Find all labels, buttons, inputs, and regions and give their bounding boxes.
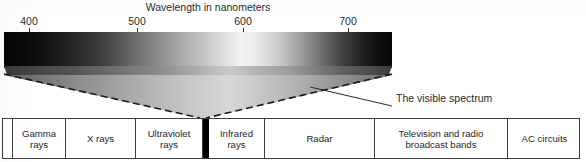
em-band-label: AC circuits — [522, 133, 568, 144]
em-band-label: Infraredrays — [220, 128, 253, 150]
em-band-label: Ultravioletrays — [148, 128, 191, 150]
em-spectrum-band-table: GammaraysX raysUltravioletraysInfraredra… — [2, 118, 580, 159]
em-band-cell-ultraviolet-rays: Ultravioletrays — [136, 119, 203, 158]
em-band-cell-spacer-left — [3, 119, 13, 158]
em-band-label: Radar — [306, 133, 332, 144]
visible-spectrum-callout-label: The visible spectrum — [396, 92, 492, 104]
em-band-cell-gamma-rays: Gammarays — [13, 119, 66, 158]
axis-tick-label-500: 500 — [128, 15, 146, 27]
em-band-label: Television and radiobroadcast bands — [399, 128, 484, 150]
page-title: Wavelength in nanometers — [118, 1, 298, 13]
axis-tick-label-600: 600 — [234, 15, 252, 27]
em-band-label: Gammarays — [22, 128, 56, 150]
em-band-cell-x-rays: X rays — [66, 119, 136, 158]
em-band-label: X rays — [87, 133, 114, 144]
em-band-cell-ac-circuits: AC circuits — [508, 119, 581, 158]
em-band-cell-television-and-radio: Television and radiobroadcast bands — [375, 119, 508, 158]
wavelength-axis-labels: 400500600700 — [0, 15, 586, 29]
spectrum-funnel — [0, 60, 586, 122]
em-band-cell-radar: Radar — [265, 119, 375, 158]
callout-leader-line — [310, 87, 392, 106]
funnel-fill-shade — [4, 75, 392, 118]
axis-tick-label-700: 700 — [339, 15, 357, 27]
axis-tick-label-400: 400 — [20, 15, 38, 27]
em-band-cell-infrared-rays: Infraredrays — [209, 119, 265, 158]
